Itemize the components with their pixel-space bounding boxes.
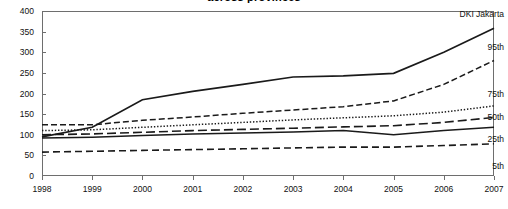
series-label-5th: 5th (492, 162, 504, 171)
series-label-95th: 95th (487, 42, 504, 51)
series-layer (0, 0, 508, 209)
series-line-5th (42, 144, 494, 152)
series-label-25th: 25th (487, 135, 504, 144)
series-label-dki-jakarta: DKI Jakarta (460, 10, 504, 19)
series-label-75th: 75th (487, 90, 504, 99)
chart-container: across provinces 05010015020025030035040… (0, 0, 508, 209)
series-label-50th: 50th (487, 113, 504, 122)
series-line-dki-jakarta (42, 28, 494, 137)
series-line-95th (42, 61, 494, 125)
